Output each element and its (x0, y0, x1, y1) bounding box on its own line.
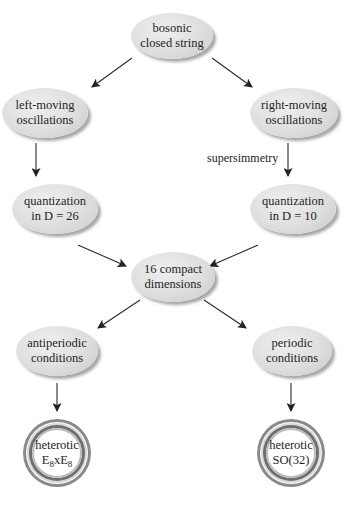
node-16-compact-dimensions: 16 compact dimensions (131, 252, 215, 302)
node-label: left-moving (15, 98, 74, 113)
node-label: heterotic (35, 438, 79, 453)
node-label: SO(32) (273, 453, 310, 468)
arrow-quant26-to-compact (78, 245, 126, 266)
node-bosonic-closed-string: bosonic closed string (131, 13, 213, 59)
node-heterotic-e8xe8: heterotic E8xE8 (32, 428, 82, 478)
node-label: oscillations (266, 113, 323, 128)
arrow-compact-to-periodic (204, 300, 246, 328)
node-label: conditions (31, 351, 83, 366)
node-label: quantization (262, 194, 324, 209)
node-label: antiperiodic (27, 336, 87, 351)
node-label: right-moving (261, 98, 327, 113)
node-label: conditions (266, 351, 318, 366)
node-label: quantization (24, 194, 86, 209)
node-label: heterotic (269, 438, 313, 453)
node-heterotic-so32: heterotic SO(32) (266, 428, 316, 478)
node-label: dimensions (145, 277, 202, 292)
node-label-e8xe8: E8xE8 (42, 453, 73, 468)
arrow-quant10-to-compact (210, 245, 258, 266)
node-label: in D = 26 (31, 209, 79, 224)
arrow-bosonic-to-right (212, 58, 252, 87)
node-quantization-d26: quantization in D = 26 (12, 184, 98, 234)
node-left-moving-oscillations: left-moving oscillations (2, 88, 88, 138)
node-label: bosonic (153, 21, 192, 36)
node-antiperiodic-conditions: antiperiodic conditions (16, 326, 98, 376)
edge-label-supersymmetry: supersimmetry (207, 151, 278, 166)
node-periodic-conditions: periodic conditions (252, 326, 332, 376)
node-right-moving-oscillations: right-moving oscillations (250, 88, 338, 138)
node-quantization-d10: quantization in D = 10 (250, 184, 336, 234)
arrow-bosonic-to-left (92, 58, 132, 87)
arrow-compact-to-antiperiodic (98, 300, 140, 328)
node-label: closed string (140, 36, 204, 51)
node-label: 16 compact (144, 262, 202, 277)
node-label: oscillations (17, 113, 74, 128)
node-label: periodic (272, 336, 313, 351)
node-label: in D = 10 (269, 209, 317, 224)
